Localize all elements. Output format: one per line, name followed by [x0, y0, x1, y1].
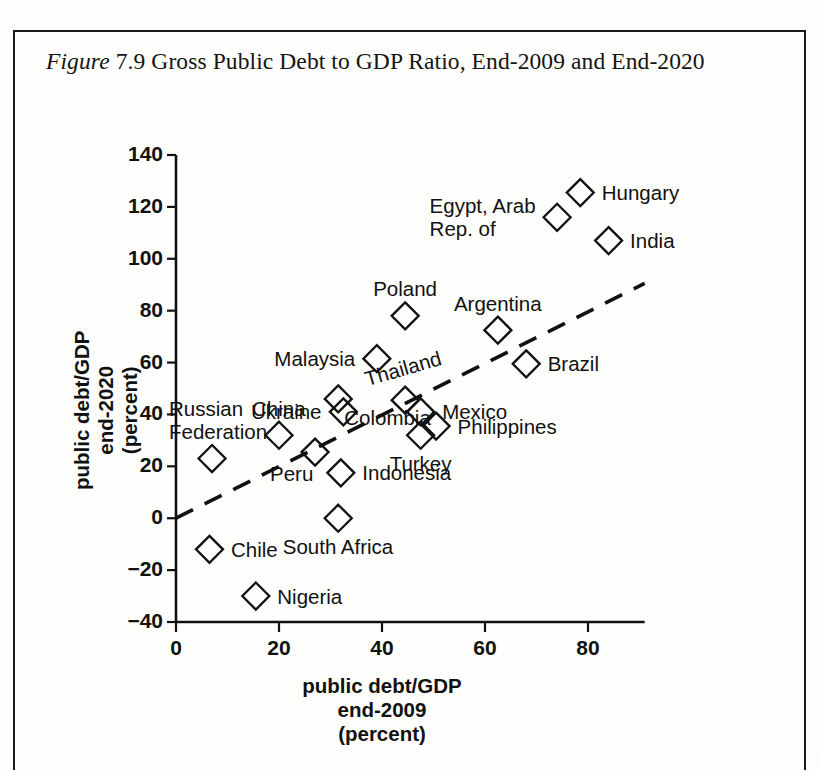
- data-point-label: Chile: [231, 538, 278, 561]
- y-tick-label: −20: [109, 557, 163, 581]
- x-axis-title: public debt/GDP end-2009 (percent): [252, 674, 512, 747]
- data-point-label: Egypt, Arab Rep. of: [430, 194, 536, 240]
- y-tick-label: 140: [109, 142, 163, 166]
- data-point-label: Poland: [373, 277, 437, 300]
- x-tick-label: 80: [558, 636, 618, 660]
- data-point-marker: [266, 422, 293, 449]
- data-point-label: Ukraine: [251, 400, 322, 423]
- data-point-marker: [196, 536, 223, 563]
- data-point-label: South Africa: [283, 535, 394, 558]
- data-point-label: Hungary: [602, 181, 680, 204]
- data-point-label: Malaysia: [274, 347, 355, 370]
- data-point-label: Argentina: [454, 292, 542, 315]
- data-point-label: India: [630, 229, 674, 252]
- data-point-marker: [325, 505, 352, 532]
- data-point-label: Philippines: [458, 415, 557, 438]
- data-point-marker: [544, 204, 571, 231]
- data-point-marker: [199, 445, 226, 472]
- data-point-marker: [484, 317, 511, 344]
- y-tick-label: −40: [109, 609, 163, 633]
- data-point-marker: [595, 227, 622, 254]
- y-tick-label: 100: [109, 246, 163, 270]
- data-point-marker: [567, 179, 594, 206]
- data-point-marker: [242, 583, 269, 610]
- data-point-label: Nigeria: [277, 585, 342, 608]
- x-tick-label: 0: [146, 636, 206, 660]
- data-point-label: Peru: [270, 462, 313, 485]
- data-point-label: Brazil: [548, 352, 599, 375]
- data-point-marker: [392, 302, 419, 329]
- data-point-label: Turkey: [390, 452, 452, 475]
- x-tick-label: 40: [352, 636, 412, 660]
- y-axis-title: public debt/GDP end-2020 (percent): [70, 311, 143, 511]
- data-point-label: Colombia: [344, 406, 431, 429]
- x-tick-label: 60: [455, 636, 515, 660]
- y-tick-label: 120: [109, 194, 163, 218]
- x-tick-label: 20: [249, 636, 309, 660]
- data-point-marker: [327, 459, 354, 486]
- data-point-marker: [513, 350, 540, 377]
